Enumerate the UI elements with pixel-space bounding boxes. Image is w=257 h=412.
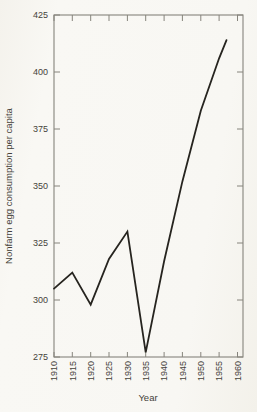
x-tick-label: 1950 (196, 361, 206, 381)
data-line (54, 40, 227, 352)
y-tick-label: 425 (33, 10, 48, 20)
x-tick-label: 1955 (214, 361, 224, 381)
x-tick-label: 1915 (68, 361, 78, 381)
y-tick-label: 400 (33, 67, 48, 77)
y-axis-title: Nonfarm egg consumption per capita (3, 107, 14, 263)
scanned-chart-page: 1910191519201925193019351940194519501955… (0, 0, 257, 412)
x-tick-label: 1935 (141, 361, 151, 381)
plot-area: 1910191519201925193019351940194519501955… (33, 10, 243, 381)
plot-frame (54, 15, 243, 357)
y-tick-label: 300 (33, 295, 48, 305)
x-tick-label: 1960 (233, 361, 243, 381)
y-tick-label: 375 (33, 124, 48, 134)
x-tick-label: 1940 (159, 361, 169, 381)
egg-consumption-chart: 1910191519201925193019351940194519501955… (0, 0, 257, 412)
x-tick-label: 1925 (104, 361, 114, 381)
x-tick-label: 1945 (178, 361, 188, 381)
y-tick-label: 350 (33, 181, 48, 191)
x-tick-label: 1910 (49, 361, 59, 381)
x-axis-title: Year (138, 392, 157, 403)
x-tick-label: 1930 (123, 361, 133, 381)
y-tick-label: 325 (33, 238, 48, 248)
x-tick-label: 1920 (86, 361, 96, 381)
y-tick-label: 275 (33, 352, 48, 362)
